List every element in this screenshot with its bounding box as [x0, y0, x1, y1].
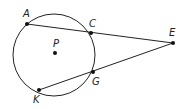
point-p [53, 51, 57, 55]
circle-p [13, 14, 95, 96]
point-c [89, 31, 93, 35]
label-g: G [92, 76, 100, 87]
point-e [171, 41, 175, 45]
label-c: C [89, 18, 96, 29]
point-k [37, 88, 41, 92]
secant-ae [27, 24, 173, 43]
secant-ke [39, 43, 173, 90]
label-e: E [169, 27, 176, 38]
point-a [25, 22, 29, 26]
label-p: P [53, 38, 60, 49]
secant-diagram: A C E G K P [0, 0, 184, 109]
label-k: K [33, 94, 41, 105]
label-a: A [22, 8, 30, 19]
point-g [91, 70, 95, 74]
